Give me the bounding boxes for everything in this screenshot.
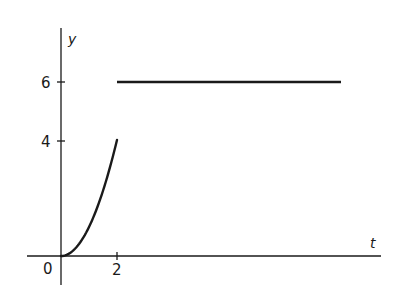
y-axis-label: y <box>67 31 77 47</box>
x-tick-label-2: 2 <box>112 261 122 279</box>
chart-canvas: y t 6 4 0 2 <box>0 0 397 298</box>
y-tick-label-6: 6 <box>41 74 51 92</box>
y-tick-label-4: 4 <box>41 133 51 151</box>
series-parabola <box>61 140 117 256</box>
origin-label: 0 <box>43 260 53 278</box>
x-axis-label: t <box>370 235 376 251</box>
